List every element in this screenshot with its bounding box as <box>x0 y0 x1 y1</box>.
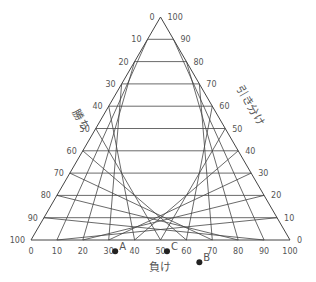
ternary-plot: 0100010901020802030703040604050505060406… <box>0 0 316 282</box>
tick-right: 10 <box>284 214 294 223</box>
axis-label-lose: 負け <box>149 261 171 274</box>
tick-left: 100 <box>10 236 25 245</box>
tick-bottom: 80 <box>233 247 243 256</box>
tick-right: 30 <box>258 169 268 178</box>
tick-bottom: 40 <box>130 247 140 256</box>
tick-right: 70 <box>206 80 216 89</box>
tick-bottom: 0 <box>28 247 33 256</box>
tick-bottom: 90 <box>259 247 269 256</box>
tick-bottom: 60 <box>181 247 191 256</box>
tick-bottom: 10 <box>52 247 62 256</box>
tick-right: 40 <box>245 147 255 156</box>
tick-left: 60 <box>67 147 77 156</box>
data-point-a <box>112 248 118 254</box>
tick-left: 20 <box>118 58 128 67</box>
tick-right: 80 <box>193 58 203 67</box>
tick-bottom: 100 <box>282 247 297 256</box>
tick-left: 90 <box>28 214 38 223</box>
tick-bottom: 20 <box>78 247 88 256</box>
tick-right: 60 <box>219 102 229 111</box>
point-label: B <box>203 252 210 263</box>
grid-lines <box>31 17 290 240</box>
point-label: C <box>171 241 178 252</box>
ternary-diagram: 0100010901020802030703040604050505060406… <box>0 0 316 282</box>
tick-left: 30 <box>105 80 115 89</box>
tick-left: 40 <box>93 102 103 111</box>
data-point-b <box>196 259 202 265</box>
tick-right: 20 <box>271 191 281 200</box>
tick-left: 70 <box>54 169 64 178</box>
axis-label-draw: 引き分け <box>233 83 267 128</box>
data-point-c <box>164 248 170 254</box>
tick-left: 80 <box>41 191 51 200</box>
point-label: A <box>119 241 126 252</box>
tick-right: 0 <box>297 236 302 245</box>
tick-right: 50 <box>232 125 242 134</box>
tick-left: 0 <box>149 13 154 22</box>
tick-right: 90 <box>180 35 190 44</box>
tick-right: 100 <box>168 13 183 22</box>
tick-left: 10 <box>131 35 141 44</box>
